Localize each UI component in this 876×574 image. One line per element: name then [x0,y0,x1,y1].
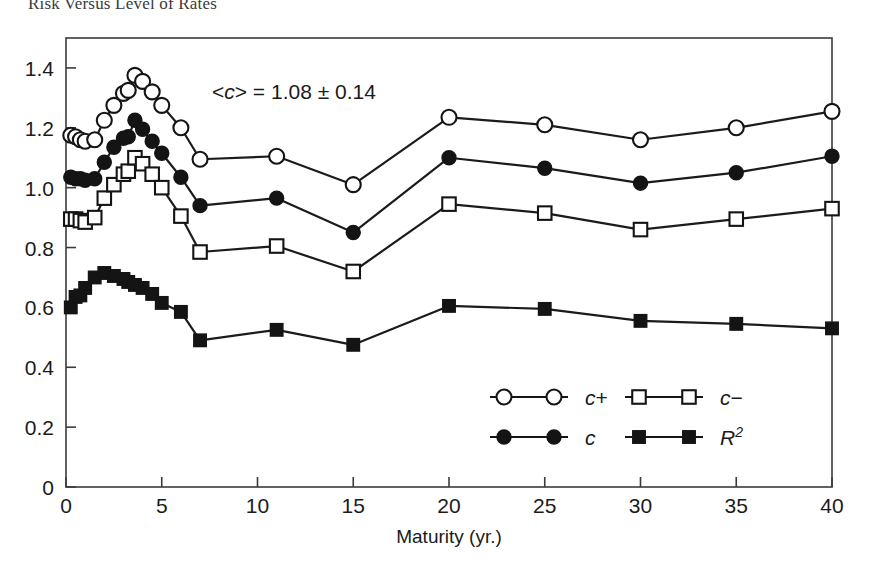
data-point [729,120,744,135]
data-point [173,120,188,135]
line-chart: 00.20.40.60.81.01.21.4 0510152025303540 … [0,0,876,574]
data-point [270,324,283,337]
data-point [347,339,360,352]
y-tick-label: 0.2 [25,416,54,439]
data-point [154,98,169,113]
mean-c-annotation: <c> = 1.08 ± 0.14 [212,80,376,103]
data-point [825,202,839,216]
data-point [194,334,207,347]
data-point [193,152,208,167]
y-tick-label: 0.8 [25,237,54,260]
y-tick-label: 1.4 [25,57,55,80]
x-tick-label: 35 [725,494,748,517]
data-point [193,199,207,213]
x-tick-label: 30 [629,494,652,517]
data-point [442,110,457,125]
legend-marker [633,431,646,444]
legend-item-R2[interactable]: R2 [625,424,743,449]
chart-legend: c+c−cR2 [490,386,743,449]
data-point [174,170,188,184]
x-tick-label: 10 [246,494,269,517]
data-point [730,212,744,226]
data-point [88,172,102,186]
legend-marker [497,390,512,405]
x-tick-label: 15 [342,494,365,517]
data-point [121,83,136,98]
x-axis-ticks: 0510152025303540 [60,477,844,517]
x-tick-label: 25 [533,494,556,517]
data-point [729,166,743,180]
y-tick-label: 1.0 [25,177,54,200]
data-point [87,132,102,147]
data-point [136,122,150,136]
data-point [155,146,169,160]
data-point [269,149,284,164]
data-point [145,167,159,181]
data-point [145,84,160,99]
data-point [539,303,552,316]
legend-label: c+ [585,386,608,409]
data-point [537,117,552,132]
legend-label: R2 [720,424,743,449]
data-point [270,191,284,205]
data-point [97,113,112,128]
x-tick-label: 40 [820,494,843,517]
x-axis-title: Maturity (yr.) [396,526,502,547]
data-point [826,322,839,335]
figure-container: Risk Versus Level of Rates 00.20.40.60.8… [0,0,876,574]
data-point [193,245,207,258]
data-point [825,149,839,163]
data-point [538,161,552,175]
legend-label: c [585,426,596,449]
data-point [346,177,361,192]
x-tick-label: 5 [156,494,168,517]
data-point [634,176,648,190]
legend-marker [682,390,696,404]
series-R2 [65,267,839,351]
data-point [346,226,360,240]
legend-item-c[interactable]: c [490,426,596,449]
data-point [121,164,135,178]
data-series-layer [63,68,839,351]
data-point [156,297,169,310]
legend-item-c-[interactable]: c− [625,386,743,409]
data-point [442,151,456,165]
y-axis-ticks: 00.20.40.60.81.01.21.4 [25,57,76,499]
data-point [98,191,112,205]
data-point [174,209,188,223]
data-point [121,130,135,144]
legend-marker [547,390,562,405]
data-point [633,132,648,147]
data-point [155,181,169,195]
y-tick-label: 0 [42,476,54,499]
x-tick-label: 0 [60,494,72,517]
legend-marker [497,430,511,444]
data-point [730,318,743,331]
legend-item-c+[interactable]: c+ [490,386,608,409]
y-tick-label: 0.6 [25,296,54,319]
legend-marker [547,430,561,444]
y-tick-label: 0.4 [25,356,55,379]
legend-label: c− [720,386,743,409]
data-point [270,239,284,253]
data-point [97,155,111,169]
data-point [347,265,361,279]
legend-marker [683,431,696,444]
legend-marker [632,390,646,404]
data-point [175,306,188,319]
plot-frame [66,38,832,487]
data-point [88,211,102,225]
data-point [634,315,647,328]
data-point [145,134,159,148]
data-point [538,206,552,220]
data-point [825,104,840,119]
chart-title: Risk Versus Level of Rates [28,0,448,12]
data-point [634,223,648,237]
data-point [443,300,456,313]
x-tick-label: 20 [437,494,460,517]
data-point [442,197,456,211]
y-tick-label: 1.2 [25,117,54,140]
